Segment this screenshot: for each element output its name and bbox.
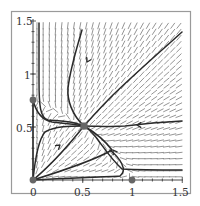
field-segment [61,95,62,101]
field-segment [55,35,56,41]
x-tick-label-1.5: 1.5 [172,186,189,198]
field-segment [49,95,50,101]
phase-portrait-plot: 0 0.5 1 1.5 0.5 1 1.5 [0,0,200,206]
x-tick-label-0: 0 [30,186,37,198]
equilibrium-point [129,177,136,184]
equilibrium-point [81,123,88,130]
x-tick-label-0.5: 0.5 [74,186,91,198]
field-segment [108,140,114,141]
field-segment [55,23,56,29]
field-segment [151,152,157,153]
field-segment [55,71,56,77]
phase-portrait-figure: 0 0.5 1 1.5 0.5 1 1.5 [0,0,200,206]
field-segment [55,29,56,35]
x-tick-label-1: 1 [129,186,136,198]
y-tick-label-1.5: 1.5 [16,15,33,27]
y-tick-label-0.5: 0.5 [16,122,33,134]
equilibrium-point [30,177,37,184]
field-segment [145,152,151,153]
equilibrium-point [30,97,37,104]
y-tick-label-1: 1 [24,69,31,81]
field-segment [55,41,56,47]
field-segment [55,77,56,83]
